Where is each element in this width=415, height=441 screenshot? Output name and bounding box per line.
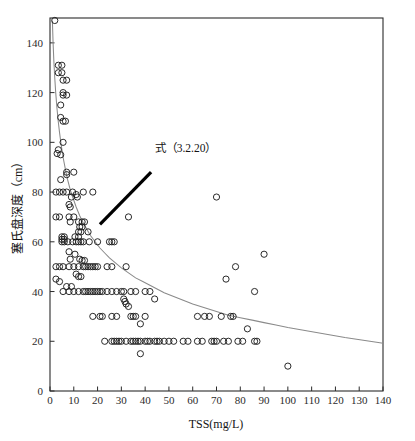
x-axis-title: TSS(mg/L)	[189, 417, 244, 431]
y-tick-label: 140	[27, 37, 44, 49]
data-points-group	[52, 17, 291, 369]
x-tick-label: 0	[47, 394, 53, 406]
data-point-marker	[194, 313, 200, 319]
data-point-marker	[90, 313, 96, 319]
data-point-marker	[223, 276, 229, 282]
x-tick-label: 50	[163, 394, 175, 406]
equation-callout-label: 式（3.2.20）	[155, 142, 217, 154]
scatter-plot-figure: 0102030405060708090100110120130140 02040…	[0, 0, 415, 441]
data-point-marker	[240, 338, 246, 344]
y-tick-label: 20	[32, 335, 44, 347]
data-point-marker	[213, 194, 219, 200]
data-point-marker	[54, 150, 60, 156]
x-tick-label: 100	[280, 394, 297, 406]
data-point-marker	[86, 239, 92, 245]
annotation-group: 式（3.2.20）	[100, 142, 216, 224]
data-point-marker	[123, 264, 129, 270]
x-tick-label: 70	[211, 394, 223, 406]
y-axis-title: 塞氏盘深度（cm）	[10, 156, 25, 255]
data-point-marker	[90, 189, 96, 195]
data-point-marker	[58, 102, 64, 108]
y-tick-label: 0	[38, 385, 44, 397]
data-point-marker	[285, 363, 291, 369]
x-tick-label: 80	[235, 394, 247, 406]
x-tick-label: 10	[68, 394, 80, 406]
data-point-marker	[185, 338, 191, 344]
y-tick-label: 80	[32, 186, 44, 198]
x-tick-label: 110	[304, 394, 321, 406]
plot-canvas: 0102030405060708090100110120130140 02040…	[0, 0, 415, 441]
x-tick-label: 130	[351, 394, 368, 406]
data-point-marker	[67, 256, 73, 262]
data-point-marker	[66, 249, 72, 255]
y-tick-label: 120	[27, 87, 44, 99]
data-point-marker	[80, 189, 86, 195]
data-point-marker	[109, 264, 115, 270]
y-tick-label: 60	[32, 236, 44, 248]
data-point-marker	[114, 313, 120, 319]
data-point-marker	[147, 288, 153, 294]
data-point-marker	[171, 338, 177, 344]
x-tick-label: 140	[375, 394, 392, 406]
data-point-marker	[199, 338, 205, 344]
data-point-marker	[72, 251, 78, 257]
x-tick-label: 60	[187, 394, 199, 406]
data-point-marker	[261, 251, 267, 257]
x-axis-ticks: 0102030405060708090100110120130140	[47, 387, 392, 407]
data-point-marker	[58, 177, 64, 183]
data-point-marker	[137, 351, 143, 357]
data-point-marker	[71, 169, 77, 175]
x-tick-label: 30	[116, 394, 128, 406]
data-point-marker	[244, 326, 250, 332]
data-point-marker	[102, 338, 108, 344]
y-tick-label: 100	[27, 136, 44, 148]
data-point-marker	[142, 313, 148, 319]
data-point-marker	[232, 264, 238, 270]
x-tick-label: 120	[327, 394, 344, 406]
x-tick-label: 20	[92, 394, 104, 406]
x-tick-label: 90	[259, 394, 271, 406]
data-point-marker	[251, 288, 257, 294]
data-point-marker	[218, 313, 224, 319]
data-point-marker	[225, 338, 231, 344]
data-point-marker	[206, 313, 212, 319]
data-point-marker	[152, 296, 158, 302]
y-tick-label: 40	[32, 286, 44, 298]
data-point-marker	[133, 288, 139, 294]
x-tick-label: 40	[140, 394, 152, 406]
data-point-marker	[60, 288, 66, 294]
data-point-marker	[125, 214, 131, 220]
data-point-marker	[137, 321, 143, 327]
